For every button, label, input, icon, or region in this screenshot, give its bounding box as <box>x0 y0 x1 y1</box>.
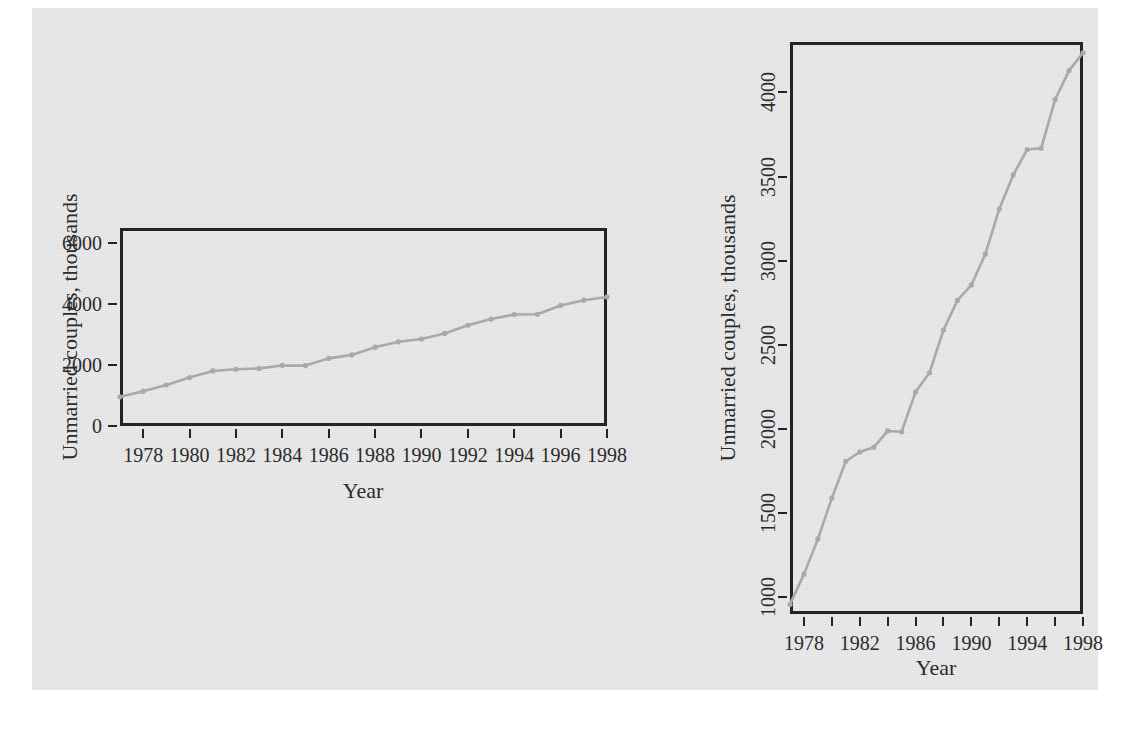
y-tick-label: 2000 <box>10 354 102 377</box>
x-tick-mark <box>831 617 833 626</box>
y-tick-mark <box>108 425 117 427</box>
series-point-marker <box>829 495 834 500</box>
x-tick-mark <box>942 617 944 626</box>
y-tick-mark <box>108 242 117 244</box>
y-tick-label: 2000 <box>757 409 780 449</box>
series-point-marker <box>857 449 862 454</box>
x-tick-label: 1978 <box>784 632 824 655</box>
y-tick-label: 1500 <box>757 493 780 533</box>
series-point-marker <box>969 282 974 287</box>
series-point-marker <box>280 363 285 368</box>
series-point-marker <box>210 368 215 373</box>
series-point-marker <box>535 312 540 317</box>
series-point-marker <box>604 294 609 299</box>
y-tick-label: 0 <box>10 415 102 438</box>
x-tick-mark <box>328 429 330 438</box>
x-tick-mark <box>859 617 861 626</box>
x-tick-mark <box>467 429 469 438</box>
series-point-marker <box>899 429 904 434</box>
x-tick-label: 1990 <box>951 632 991 655</box>
x-tick-mark <box>606 429 608 438</box>
x-tick-label: 1980 <box>170 444 210 467</box>
series-point-marker <box>419 336 424 341</box>
x-tick-mark <box>560 429 562 438</box>
series-point-marker <box>141 389 146 394</box>
x-tick-label: 1984 <box>262 444 302 467</box>
series-point-marker <box>1011 172 1016 177</box>
x-tick-label: 1978 <box>123 444 163 467</box>
x-tick-mark <box>281 429 283 438</box>
series-point-marker <box>801 572 806 577</box>
x-tick-label: 1986 <box>309 444 349 467</box>
right-chart-panel: 197819821986199019941998 100015002000250… <box>700 0 1131 700</box>
x-tick-label: 1990 <box>401 444 441 467</box>
x-tick-mark <box>1026 617 1028 626</box>
left-x-axis-title: Year <box>343 478 384 504</box>
y-tick-label: 2500 <box>757 325 780 365</box>
series-point-marker <box>955 298 960 303</box>
series-point-marker <box>233 367 238 372</box>
x-tick-mark <box>970 617 972 626</box>
y-tick-label: 3500 <box>757 157 780 197</box>
x-tick-label: 1982 <box>216 444 256 467</box>
right-x-axis-title: Year <box>916 655 957 681</box>
series-point-marker <box>843 459 848 464</box>
series-point-marker <box>1025 147 1030 152</box>
series-line <box>790 53 1083 605</box>
series-point-marker <box>885 428 890 433</box>
series-point-marker <box>871 445 876 450</box>
x-tick-mark <box>1082 617 1084 626</box>
series-point-marker <box>303 363 308 368</box>
x-tick-mark <box>235 429 237 438</box>
series-point-marker <box>941 327 946 332</box>
x-tick-label: 1992 <box>448 444 488 467</box>
series-point-marker <box>1080 50 1085 55</box>
x-tick-label: 1998 <box>1063 632 1103 655</box>
x-tick-label: 1994 <box>494 444 534 467</box>
x-tick-mark <box>915 617 917 626</box>
series-point-marker <box>558 303 563 308</box>
series-point-marker <box>117 394 122 399</box>
x-tick-mark <box>374 429 376 438</box>
series-point-marker <box>787 602 792 607</box>
series-point-marker <box>257 366 262 371</box>
x-tick-mark <box>513 429 515 438</box>
series-point-marker <box>373 345 378 350</box>
x-tick-label: 1982 <box>840 632 880 655</box>
y-tick-label: 6000 <box>10 232 102 255</box>
y-tick-label: 4000 <box>10 293 102 316</box>
y-tick-label: 4000 <box>757 72 780 112</box>
series-point-marker <box>512 312 517 317</box>
series-point-marker <box>1039 146 1044 151</box>
series-point-marker <box>465 323 470 328</box>
x-tick-label: 1996 <box>541 444 581 467</box>
x-tick-mark <box>420 429 422 438</box>
x-tick-mark <box>998 617 1000 626</box>
y-tick-label: 1000 <box>757 577 780 617</box>
x-tick-mark <box>803 617 805 626</box>
series-point-marker <box>913 389 918 394</box>
series-point-marker <box>396 339 401 344</box>
series-line <box>120 297 607 397</box>
x-tick-mark <box>189 429 191 438</box>
y-tick-mark <box>108 303 117 305</box>
series-point-marker <box>1066 68 1071 73</box>
x-tick-mark <box>1054 617 1056 626</box>
series-point-marker <box>488 316 493 321</box>
series-point-marker <box>581 298 586 303</box>
series-point-marker <box>983 252 988 257</box>
x-tick-label: 1994 <box>1007 632 1047 655</box>
x-tick-label: 1988 <box>355 444 395 467</box>
x-tick-label: 1998 <box>587 444 627 467</box>
series-point-marker <box>927 370 932 375</box>
left-y-axis-title: Unmarried couples, thousands <box>57 194 83 461</box>
series-point-marker <box>164 382 169 387</box>
figure-page: 1978198019821984198619881990199219941996… <box>0 0 1131 732</box>
series-point-marker <box>815 536 820 541</box>
series-point-marker <box>1053 97 1058 102</box>
y-tick-label: 3000 <box>757 241 780 281</box>
right-y-axis-title: Unmarried couples, thousands <box>715 195 741 462</box>
x-tick-mark <box>142 429 144 438</box>
x-tick-mark <box>887 617 889 626</box>
series-point-marker <box>997 206 1002 211</box>
